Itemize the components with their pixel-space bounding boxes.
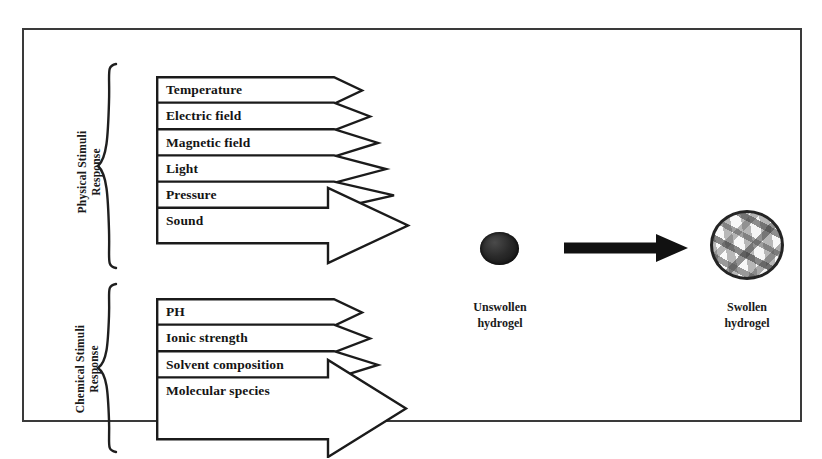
- physical-item-label-magnetic-field: Magnetic field: [166, 135, 250, 151]
- chemical-stimuli-list: PH Ionic strength Solvent composition Mo…: [156, 298, 416, 458]
- unswollen-caption-line1: Unswollen: [473, 300, 526, 314]
- chemical-item-label-ph: PH: [166, 304, 185, 320]
- physical-item-label-pressure: Pressure: [166, 187, 217, 203]
- physical-item-label-sound: Sound: [166, 213, 203, 229]
- figure-frame: Physical Stimuli Response: [22, 28, 802, 422]
- physical-stimuli-list: Temperature Electric field Magnetic fiel…: [156, 76, 416, 266]
- swollen-caption-line2: hydrogel: [724, 316, 769, 330]
- chemical-item-label-solvent-composition: Solvent composition: [166, 357, 284, 373]
- physical-group-label-line1: Physical Stimuli: [75, 72, 89, 272]
- physical-item-label-light: Light: [166, 161, 198, 177]
- swollen-hydrogel-shape: [710, 210, 784, 280]
- unswollen-hydrogel-caption: Unswollen hydrogel: [436, 299, 564, 331]
- physical-item-label-temperature: Temperature: [166, 82, 242, 98]
- chemical-group-brace-icon: [96, 282, 122, 454]
- chemical-item-label-ionic-strength: Ionic strength: [166, 330, 248, 346]
- swollen-hydrogel-caption: Swollen hydrogel: [683, 299, 811, 331]
- chemical-item-label-molecular-species: Molecular species: [166, 383, 270, 399]
- physical-item-label-electric-field: Electric field: [166, 108, 241, 124]
- chemical-group-label-line1: Chemical Stimuli: [73, 279, 87, 459]
- swollen-caption-line1: Swollen: [727, 300, 767, 314]
- unswollen-caption-line2: hydrogel: [477, 316, 522, 330]
- physical-group-brace-icon: [96, 62, 122, 270]
- swelling-transition-arrow-icon: [564, 232, 688, 264]
- unswollen-hydrogel-shape: [480, 232, 519, 265]
- chemical-arrow-rows-graphic: [156, 298, 416, 458]
